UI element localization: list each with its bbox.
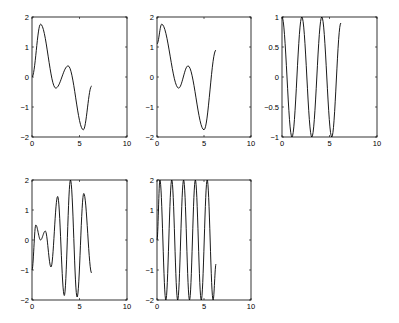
axes-frame [157,17,251,137]
subplot-3: 0510−1−0.500.51 [264,13,381,148]
x-tick-label: 5 [202,139,206,148]
y-tick-label: 2 [150,176,154,185]
line-series [32,180,92,297]
y-tick-label: −1 [145,103,154,112]
x-tick-label: 10 [123,139,131,148]
y-tick-label: 2 [25,13,29,22]
line-series [282,17,341,137]
subplot-4: 0510−2−1012 [20,176,131,311]
y-tick-label: 1 [25,43,29,52]
x-tick-label: 10 [123,302,131,311]
y-tick-label: 1 [150,206,154,215]
x-tick-label: 0 [30,139,34,148]
y-tick-label: 2 [150,13,154,22]
x-tick-label: 0 [30,302,34,311]
figure: 0510−2−1012 0510−2−1012 0510−1−0.500.51 … [0,0,399,323]
x-tick-label: 10 [373,139,381,148]
line-series [32,24,92,130]
y-tick-label: −0.5 [264,103,279,112]
y-tick-label: −1 [20,266,29,275]
y-tick-label: 0 [25,73,29,82]
y-tick-label: −2 [20,296,29,305]
y-tick-label: 0 [275,73,279,82]
subplot-1: 0510−2−1012 [20,13,131,148]
y-tick-label: 2 [25,176,29,185]
y-tick-label: 1 [25,206,29,215]
subplot-5: 0510−2−1012 [145,176,255,311]
x-tick-label: 5 [77,302,81,311]
y-tick-label: 1 [275,13,279,22]
y-tick-label: 0 [150,73,154,82]
x-tick-label: 0 [155,139,159,148]
y-tick-label: 1 [150,43,154,52]
y-tick-label: −1 [145,266,154,275]
y-tick-label: −2 [145,296,154,305]
y-tick-label: −1 [270,133,279,142]
x-tick-label: 10 [247,139,255,148]
y-tick-label: −2 [145,133,154,142]
y-tick-label: 0 [150,236,154,245]
line-series [157,24,216,130]
y-tick-label: 0.5 [269,43,279,52]
x-tick-label: 0 [155,302,159,311]
x-tick-label: 5 [327,139,331,148]
axes-frame [32,180,127,300]
line-series [157,180,216,300]
x-tick-label: 5 [202,302,206,311]
x-tick-label: 0 [280,139,284,148]
x-tick-label: 5 [77,139,81,148]
y-tick-label: 0 [25,236,29,245]
y-tick-label: −2 [20,133,29,142]
subplot-2: 0510−2−1012 [145,13,255,148]
y-tick-label: −1 [20,103,29,112]
x-tick-label: 10 [247,302,255,311]
